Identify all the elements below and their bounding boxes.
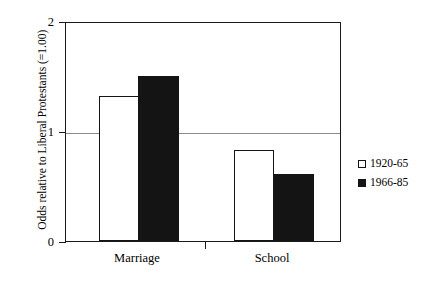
bar-marriage-1966-85 <box>138 76 179 241</box>
legend-item-1966-85: 1966-85 <box>358 175 408 191</box>
bar-school-1966-85 <box>273 174 314 241</box>
legend-label-1920-65: 1920-65 <box>370 158 408 170</box>
category-label-marriage: Marriage <box>67 252 207 265</box>
y-tick-label-2: 2 <box>24 16 54 29</box>
y-tick-mark-0 <box>59 242 66 243</box>
y-tick-label-1: 1 <box>24 126 54 139</box>
legend: 1920-65 1966-85 <box>358 156 408 194</box>
legend-swatch-icon-1966-85 <box>358 179 366 187</box>
legend-item-1920-65: 1920-65 <box>358 156 408 172</box>
category-label-school: School <box>202 252 342 265</box>
plot-area <box>65 22 341 242</box>
legend-swatch-icon-1920-65 <box>358 160 366 168</box>
y-tick-label-0: 0 <box>24 236 54 249</box>
bar-school-1920-65 <box>234 150 274 241</box>
x-axis-center-tick <box>205 242 206 249</box>
bar-chart: Odds relative to Liberal Protestants (=1… <box>0 0 427 285</box>
legend-label-1966-85: 1966-85 <box>370 177 408 189</box>
bar-marriage-1920-65 <box>99 96 139 241</box>
